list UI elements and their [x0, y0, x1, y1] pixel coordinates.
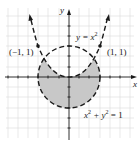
point-left-label: (−1, 1)	[9, 47, 34, 57]
parabola-equation: y = x2	[75, 31, 98, 42]
y-axis	[67, 9, 71, 140]
parabola-eq-text: y = x	[75, 32, 95, 42]
point-left-marker	[36, 44, 40, 48]
point-right-marker	[98, 44, 102, 48]
x-axis-label: x	[132, 79, 137, 89]
graph-figure: y x y = x2 (−1, 1) (1, 1) x2 + y2 = 1	[0, 0, 139, 141]
parabola-arrow-right-icon	[106, 14, 111, 21]
y-axis-label: y	[59, 5, 64, 15]
parabola-arrow-left-icon	[29, 14, 34, 21]
circle-eq-end: = 1	[109, 110, 123, 120]
circle-eq-mid: + y	[91, 110, 106, 120]
point-right-label: (1, 1)	[107, 47, 127, 57]
parabola-eq-exponent: 2	[95, 31, 98, 37]
